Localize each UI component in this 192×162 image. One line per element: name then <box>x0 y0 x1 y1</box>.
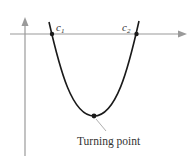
turning-point-leader <box>96 119 106 131</box>
parabola-curve <box>49 21 139 116</box>
label-c2: c2 <box>122 21 131 35</box>
root-point-c2 <box>134 32 138 36</box>
x-axis-arrow-icon <box>178 31 187 38</box>
label-turning-point: Turning point <box>77 135 141 148</box>
x-axis <box>10 31 187 38</box>
diagram-svg: c1 c2 Turning point <box>0 0 192 162</box>
label-c1: c1 <box>56 21 64 35</box>
parabola-diagram: c1 c2 Turning point <box>0 0 192 162</box>
y-axis-arrow-icon <box>22 17 29 26</box>
root-point-c1 <box>50 32 54 36</box>
y-axis <box>22 17 29 156</box>
turning-point-dot <box>92 114 97 119</box>
